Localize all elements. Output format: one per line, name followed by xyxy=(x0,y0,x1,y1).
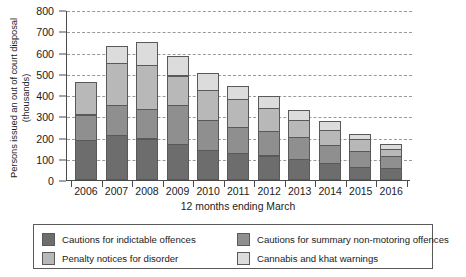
bar-segment[interactable] xyxy=(167,76,189,107)
legend-label: Cautions for indictable offences xyxy=(62,234,196,245)
bar-segment[interactable] xyxy=(106,135,128,180)
plot-area xyxy=(66,11,410,181)
bar-segment[interactable] xyxy=(167,105,189,144)
bar-column[interactable] xyxy=(227,11,249,180)
bar-segment[interactable] xyxy=(349,139,371,152)
bar-column[interactable] xyxy=(106,11,128,180)
bar-segment[interactable] xyxy=(227,127,249,155)
bar-segment[interactable] xyxy=(197,90,219,121)
bar-segment[interactable] xyxy=(227,153,249,180)
y-axis-tick xyxy=(59,53,66,54)
bar-segment[interactable] xyxy=(197,120,219,151)
bar-column[interactable] xyxy=(288,11,310,180)
legend-swatch xyxy=(237,252,250,265)
bar-segment[interactable] xyxy=(258,156,280,180)
legend-label: Penalty notices for disorder xyxy=(62,253,178,264)
y-axis-tick xyxy=(59,159,66,160)
y-axis-tick-label: 200 xyxy=(36,133,54,145)
legend-item[interactable]: Cannabis and khat warnings xyxy=(237,249,432,268)
bar-group xyxy=(67,11,410,180)
y-axis-tick-label: 0 xyxy=(48,175,54,187)
bar-segment[interactable] xyxy=(197,73,219,91)
y-axis-tick-label: 300 xyxy=(36,111,54,123)
bar-segment[interactable] xyxy=(136,65,158,110)
y-axis-tick xyxy=(59,11,66,12)
bar-segment[interactable] xyxy=(167,144,189,180)
legend-item[interactable]: Cautions for summary non-motoring offenc… xyxy=(237,230,432,249)
legend-swatch xyxy=(42,233,55,246)
x-axis-tick-label: 2008 xyxy=(135,185,157,201)
x-axis-tick-label: 2014 xyxy=(319,185,341,201)
y-axis-tick-label: 800 xyxy=(36,5,54,17)
y-axis-tick-label: 400 xyxy=(36,90,54,102)
bar-segment[interactable] xyxy=(258,108,280,131)
y-axis-tick-label: 600 xyxy=(36,48,54,60)
y-axis-tick xyxy=(59,74,66,75)
bar-segment[interactable] xyxy=(319,145,341,164)
x-axis-tick-label: 2016 xyxy=(380,185,402,201)
bar-column[interactable] xyxy=(75,11,97,180)
bar-segment[interactable] xyxy=(136,139,158,180)
bar-segment[interactable] xyxy=(288,120,310,138)
x-axis-tick-label: 2009 xyxy=(166,185,188,201)
y-axis-tick-label: 100 xyxy=(36,154,54,166)
legend-item[interactable]: Cautions for indictable offences xyxy=(42,230,237,249)
chart-figure: Persons issued an out of court disposal … xyxy=(0,0,466,277)
bar-segment[interactable] xyxy=(106,46,128,64)
legend-swatch xyxy=(237,233,250,246)
bar-segment[interactable] xyxy=(380,168,402,180)
x-axis-tick-label: 2012 xyxy=(257,185,279,201)
bar-segment[interactable] xyxy=(319,163,341,180)
bar-column[interactable] xyxy=(349,11,371,180)
bar-segment[interactable] xyxy=(106,63,128,107)
bar-segment[interactable] xyxy=(227,99,249,128)
bar-column[interactable] xyxy=(197,11,219,180)
bar-segment[interactable] xyxy=(349,151,371,168)
y-axis-tick xyxy=(59,32,66,33)
bar-segment[interactable] xyxy=(167,56,189,76)
x-axis-tick-label: 2006 xyxy=(74,185,96,201)
bar-segment[interactable] xyxy=(136,42,158,65)
bar-segment[interactable] xyxy=(227,86,249,100)
bar-segment[interactable] xyxy=(288,137,310,159)
y-axis-tick-label: 500 xyxy=(36,69,54,81)
y-axis: 0100200300400500600700800 xyxy=(0,0,66,181)
x-axis-title: 12 months ending March xyxy=(66,201,410,212)
x-axis-tick-label: 2013 xyxy=(288,185,310,201)
y-axis-tick xyxy=(59,117,66,118)
x-axis-tick-label: 2010 xyxy=(196,185,218,201)
x-axis-tick-label: 2011 xyxy=(227,185,249,201)
chart-legend: Cautions for indictable offencesCautions… xyxy=(33,224,433,269)
legend-swatch xyxy=(42,252,55,265)
legend-item[interactable]: Penalty notices for disorder xyxy=(42,249,237,268)
y-axis-tick xyxy=(59,138,66,139)
bar-column[interactable] xyxy=(319,11,341,180)
y-axis-tick xyxy=(59,181,66,182)
bar-segment[interactable] xyxy=(319,130,341,146)
bar-segment[interactable] xyxy=(75,82,97,116)
bar-segment[interactable] xyxy=(75,115,97,141)
bar-segment[interactable] xyxy=(380,156,402,169)
x-axis-labels: 2006200720082009201020112012201320142015… xyxy=(66,185,410,201)
bar-column[interactable] xyxy=(167,11,189,180)
bar-segment[interactable] xyxy=(106,105,128,136)
x-axis-tick-label: 2015 xyxy=(349,185,371,201)
legend-label: Cannabis and khat warnings xyxy=(257,253,378,264)
y-axis-tick xyxy=(59,96,66,97)
bar-segment[interactable] xyxy=(258,131,280,157)
bar-segment[interactable] xyxy=(349,167,371,180)
x-axis-tick-label: 2007 xyxy=(105,185,127,201)
y-axis-tick-label: 700 xyxy=(36,26,54,38)
bar-column[interactable] xyxy=(258,11,280,180)
bar-segment[interactable] xyxy=(197,150,219,180)
bar-column[interactable] xyxy=(136,11,158,180)
bar-segment[interactable] xyxy=(136,109,158,140)
bar-segment[interactable] xyxy=(75,140,97,180)
legend-label: Cautions for summary non-motoring offenc… xyxy=(257,234,449,245)
bar-segment[interactable] xyxy=(258,96,280,110)
bar-segment[interactable] xyxy=(288,159,310,180)
bar-column[interactable] xyxy=(380,11,402,180)
